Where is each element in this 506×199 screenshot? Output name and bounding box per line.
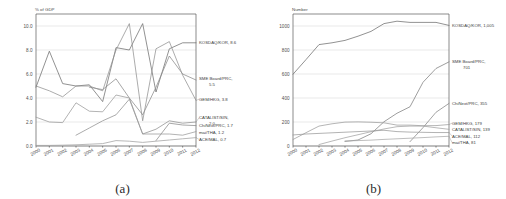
x-axis-tick-label: 2006	[110, 147, 122, 156]
series-end-label: GEM/HKG, 179	[452, 121, 482, 126]
series-end-label: KOSDAQ/KOR, 1,005	[452, 23, 495, 28]
x-axis-tick-label: 2007	[378, 147, 390, 156]
series-end-label: SME Board/PRC,	[199, 76, 232, 81]
x-axis-tick-label: 2011	[430, 147, 441, 156]
y-axis-tick-label: 800	[282, 48, 290, 53]
x-axis-tick-label: 2007	[123, 147, 135, 156]
y-axis-tick-label: 6.0	[26, 72, 33, 77]
panel-a-caption: (a)	[0, 181, 249, 197]
series-end-label: mai/THA, 1.2	[199, 130, 225, 135]
series-end-label: 5.5	[209, 82, 216, 87]
y-axis-tick-label: 4.0	[26, 96, 33, 101]
series-line	[76, 99, 196, 135]
y-axis-tick-label: 600	[282, 72, 290, 77]
series-end-label: ACE/MAL, 112	[452, 134, 481, 139]
x-axis-tick-label: 2012	[190, 147, 202, 156]
series-line	[293, 21, 449, 74]
series-line	[36, 24, 196, 121]
y-axis-title: Number	[292, 7, 308, 12]
x-axis-tick-label: 2009	[150, 147, 162, 156]
x-axis-tick-label: 2005	[352, 147, 364, 156]
line-chart-b: Number0200400600800100020002001200220032…	[253, 0, 506, 172]
x-axis-tick-label: 2004	[339, 147, 351, 156]
x-axis-tick-label: 2002	[313, 147, 325, 156]
x-axis-tick-label: 2010	[417, 147, 429, 156]
y-axis-tick-label: 0	[287, 144, 290, 149]
y-axis-tick-label: 200	[282, 120, 290, 125]
series-end-label: mai/THA, 81	[452, 140, 476, 145]
x-axis-tick-label: 2003	[70, 147, 82, 156]
series-end-label: ChiNext/PRC, 355	[452, 101, 488, 106]
series-line	[293, 130, 449, 135]
x-axis-tick-label: 2003	[326, 147, 338, 156]
series-line	[319, 126, 449, 144]
series-end-label: ACE/MAL, 0.7	[199, 137, 227, 142]
series-line	[36, 138, 196, 146]
y-axis-tick-label: 400	[282, 96, 290, 101]
x-axis-tick-label: 2011	[176, 147, 187, 156]
figure-container: % of GDP0.02.04.06.08.010.02000200120022…	[0, 0, 506, 199]
x-axis-tick-label: 2012	[443, 147, 455, 156]
line-chart-a: % of GDP0.02.04.06.08.010.02000200120022…	[0, 0, 253, 172]
x-axis-tick-label: 2008	[136, 147, 148, 156]
x-axis-tick-label: 2000	[287, 147, 299, 156]
series-end-label: ChiNext/PRC, 1.7	[199, 123, 234, 128]
x-axis-tick-label: 2001	[300, 147, 312, 156]
x-axis-tick-label: 2004	[83, 147, 95, 156]
y-axis-tick-label: 8.0	[26, 48, 33, 53]
chart-panel-a: % of GDP0.02.04.06.08.010.02000200120022…	[0, 0, 253, 199]
x-axis-tick-label: 2002	[56, 147, 68, 156]
x-axis-tick-label: 2006	[365, 147, 377, 156]
series-line	[89, 56, 196, 115]
series-end-label: 701	[463, 65, 471, 70]
y-axis-tick-label: 10.0	[24, 24, 33, 29]
y-axis-tick-label: 0.0	[26, 144, 33, 149]
y-axis-title: % of GDP	[35, 7, 55, 12]
x-axis-tick-label: 2000	[30, 147, 42, 156]
x-axis-tick-label: 2005	[96, 147, 108, 156]
x-axis-tick-label: 2001	[43, 147, 55, 156]
series-end-label: KOSDAQ/KOR, 8.6	[199, 40, 237, 45]
series-end-label: CATALIST/SIN, 139	[452, 127, 490, 132]
series-line	[36, 24, 196, 102]
x-axis-tick-label: 2009	[404, 147, 416, 156]
chart-panel-b: Number0200400600800100020002001200220032…	[253, 0, 506, 199]
y-axis-tick-label: 2.0	[26, 120, 33, 125]
series-line	[410, 103, 449, 141]
series-end-label: GEM/HKG, 3.8	[199, 97, 228, 102]
x-axis-tick-label: 2010	[163, 147, 175, 156]
x-axis-tick-label: 2008	[391, 147, 403, 156]
panel-b-caption: (b)	[247, 181, 500, 197]
y-axis-tick-label: 1000	[279, 24, 290, 29]
